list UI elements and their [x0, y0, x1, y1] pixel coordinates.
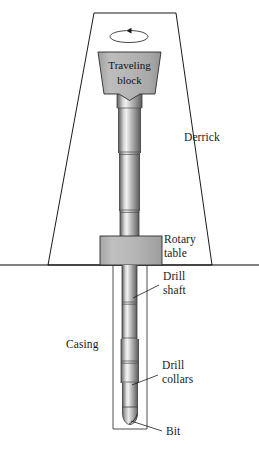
bit-leader: [131, 421, 162, 431]
bit-label: Bit: [166, 425, 181, 437]
rotary-table-label-line1: Rotary: [164, 233, 196, 246]
drill-collars: [121, 339, 139, 407]
drill-shaft-label-line1: Drill: [163, 270, 185, 282]
drill-shaft-below: [122, 265, 137, 339]
traveling-block-label-line2: block: [117, 74, 142, 86]
rotary-table: [100, 236, 162, 265]
drill-collars-label-line2: collars: [162, 373, 194, 385]
rotary-table-label-line2: table: [164, 247, 187, 259]
drilling-rig-figure: Traveling block Derrick Rotary table Dri…: [0, 0, 259, 459]
rotation-arrow: [110, 28, 148, 43]
drill-shaft-label-line2: shaft: [163, 284, 187, 296]
traveling-block-label-line1: Traveling: [108, 59, 151, 71]
drill-shaft: [117, 94, 142, 236]
traveling-block: Traveling block: [98, 52, 161, 101]
drill-collars-label-line1: Drill: [162, 359, 184, 371]
casing-label: Casing: [66, 338, 99, 351]
derrick-label: Derrick: [184, 131, 220, 143]
bit: [123, 407, 138, 425]
